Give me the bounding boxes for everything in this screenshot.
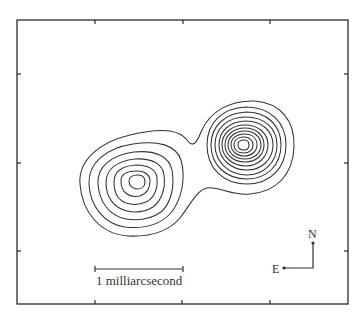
north-arrow-tip-icon bbox=[311, 241, 314, 244]
outer-contour bbox=[80, 101, 294, 236]
left-contour-7 bbox=[129, 175, 145, 189]
left-contour-2 bbox=[89, 143, 183, 228]
compass: N E bbox=[272, 227, 317, 276]
right-contour-8 bbox=[228, 131, 261, 159]
axis-ticks bbox=[17, 20, 348, 304]
north-label: N bbox=[308, 227, 317, 241]
right-contour-10 bbox=[234, 137, 253, 153]
compass-arrows bbox=[284, 243, 313, 268]
contour-map-figure: 1 milliarcsecond N E bbox=[0, 0, 364, 319]
east-label: E bbox=[272, 262, 279, 276]
scale-bar-label: 1 milliarcsecond bbox=[96, 273, 183, 288]
east-arrow-tip-icon bbox=[282, 266, 285, 269]
right-contour-11 bbox=[238, 140, 249, 150]
contour-lines bbox=[80, 101, 294, 236]
plot-frame bbox=[17, 20, 348, 304]
scale-bar: 1 milliarcsecond bbox=[95, 266, 183, 288]
left-contour-3 bbox=[98, 152, 173, 220]
